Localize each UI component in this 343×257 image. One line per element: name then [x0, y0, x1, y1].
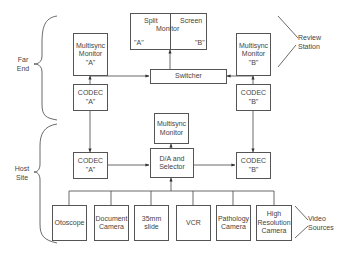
host-codec-a: CODEC "A" [73, 152, 108, 179]
split-label: Split [144, 17, 158, 25]
node-text: Selector [159, 163, 185, 172]
source-35mm-slide: 35mm slide [134, 205, 169, 241]
host-site-line1: Host [10, 165, 34, 174]
node-text: Camera [99, 223, 124, 232]
node-text: D/A and [160, 155, 185, 164]
split-b-label: "B" [195, 39, 205, 47]
node-text: Otoscope [55, 219, 85, 228]
node-text: "A" [86, 59, 96, 68]
node-text: Document [96, 215, 128, 224]
node-text: Pathology [218, 215, 249, 224]
host-site-line2: Site [10, 174, 34, 183]
node-text: Multisync [76, 42, 105, 51]
node-text: "B" [249, 166, 259, 175]
node-text: Monitor [160, 129, 183, 138]
node-text: slide [144, 223, 158, 232]
multisync-monitor-b: Multisync Monitor "B" [236, 33, 271, 76]
node-text: Resolution [257, 219, 290, 228]
split-a-label: "A" [134, 39, 144, 47]
node-text: CODEC [78, 157, 103, 166]
node-text: Multisync [157, 120, 186, 129]
node-text: 35mm [142, 215, 161, 224]
review-station-line1: Review [298, 34, 332, 43]
review-station-line2: Station [298, 43, 332, 52]
node-text: Switcher [175, 72, 202, 81]
source-otoscope: Otoscope [52, 205, 87, 241]
node-text: High [267, 210, 281, 219]
host-multisync-monitor: Multisync Monitor [154, 113, 189, 144]
node-text: CODEC [78, 89, 103, 98]
node-text: "A" [86, 166, 96, 175]
node-text: "A" [86, 98, 96, 107]
split-screen-monitor: Split Screen Monitor "A" "B" [130, 13, 207, 50]
monitor-label: Monitor [156, 25, 179, 33]
source-pathology-camera: Pathology Camera [216, 205, 251, 241]
far-codec-a: CODEC "A" [73, 84, 108, 111]
video-sources-line2: Sources [308, 224, 342, 233]
far-end-line2: End [12, 65, 34, 74]
far-codec-b: CODEC "B" [236, 84, 271, 111]
screen-label: Screen [180, 17, 202, 25]
node-text: "B" [249, 59, 259, 68]
video-sources-line1: Video [308, 215, 342, 224]
da-and-selector: D/A and Selector [150, 148, 194, 178]
node-text: VCR [186, 219, 201, 228]
node-text: Monitor [79, 50, 102, 59]
review-station-label: Review Station [298, 34, 332, 51]
node-text: Monitor [242, 50, 265, 59]
host-codec-b: CODEC "B" [236, 152, 271, 179]
node-text: Multisync [239, 42, 268, 51]
video-sources-label: Video Sources [308, 215, 342, 232]
node-text: Camera [262, 227, 287, 236]
host-site-label: Host Site [10, 165, 34, 182]
far-end-line1: Far [12, 56, 34, 65]
switcher: Switcher [150, 69, 227, 84]
source-document-camera: Document Camera [94, 205, 129, 241]
node-text: Camera [221, 223, 246, 232]
node-text: CODEC [241, 157, 266, 166]
source-high-resolution-camera: High Resolution Camera [256, 205, 292, 241]
source-vcr: VCR [176, 205, 211, 241]
multisync-monitor-a: Multisync Monitor "A" [73, 33, 108, 76]
node-text: CODEC [241, 89, 266, 98]
far-end-label: Far End [12, 56, 34, 73]
node-text: "B" [249, 98, 259, 107]
